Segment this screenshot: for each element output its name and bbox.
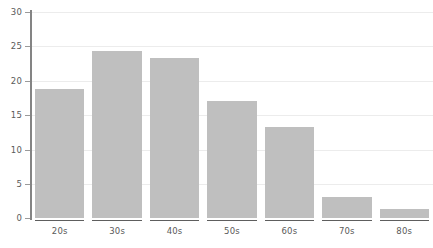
bar-40s[interactable] [150, 58, 199, 218]
x-tick-label-40s: 40s [146, 227, 203, 236]
baseline-segment-80s [380, 220, 429, 222]
x-tick-label-50s: 50s [203, 227, 260, 236]
bars-group [0, 0, 433, 248]
x-tick-label-20s: 20s [31, 227, 88, 236]
x-tick-label-80s: 80s [376, 227, 433, 236]
bar-70s[interactable] [322, 197, 371, 218]
bar-60s[interactable] [265, 127, 314, 218]
bar-20s[interactable] [35, 89, 84, 218]
x-tick-label-60s: 60s [261, 227, 318, 236]
bar-chart: 30 25 20 15 10 5 0 20s30s40s50s60s70s80s [0, 0, 433, 248]
bar-50s[interactable] [207, 101, 256, 218]
baseline-segment-30s [92, 220, 141, 222]
baseline-segment-40s [150, 220, 199, 222]
bar-80s[interactable] [380, 209, 429, 218]
baseline-segment-60s [265, 220, 314, 222]
bar-30s[interactable] [92, 51, 141, 218]
x-tick-label-70s: 70s [318, 227, 375, 236]
baseline-segment-20s [35, 220, 84, 222]
x-tick-label-30s: 30s [88, 227, 145, 236]
baseline-segment-50s [207, 220, 256, 222]
baseline-segment-70s [322, 220, 371, 222]
